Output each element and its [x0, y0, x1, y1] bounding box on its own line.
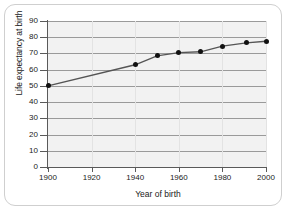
y-tick-mark	[40, 167, 47, 168]
x-tick-mark	[266, 167, 267, 172]
y-tick-mark	[40, 37, 47, 38]
x-tick-label: 1980	[205, 173, 239, 182]
y-tick-mark	[40, 21, 47, 22]
y-tick-label: 10	[14, 146, 38, 155]
y-tick-label: 90	[14, 16, 38, 25]
x-tick-mark	[135, 167, 136, 172]
x-tick-mark	[222, 167, 223, 172]
y-tick-label: 40	[14, 97, 38, 106]
x-axis-title: Year of birth	[45, 189, 271, 199]
y-tick-mark	[40, 151, 47, 152]
life-expectancy-line-chart: Life expectancy at birth 010203040506070…	[0, 0, 288, 212]
y-tick-mark	[40, 135, 47, 136]
y-tick-mark	[40, 70, 47, 71]
x-tick-mark	[92, 167, 93, 172]
y-tick-label: 80	[14, 32, 38, 41]
y-tick-mark	[40, 53, 47, 54]
data-point	[155, 53, 160, 58]
y-tick-label: 0	[14, 162, 38, 171]
x-tick-label: 2000	[249, 173, 283, 182]
series-polyline	[48, 21, 266, 167]
x-tick-label: 1900	[31, 173, 65, 182]
y-tick-label: 70	[14, 48, 38, 57]
x-tick-mark	[179, 167, 180, 172]
x-tick-mark	[48, 167, 49, 172]
y-tick-mark	[40, 102, 47, 103]
data-point	[46, 83, 51, 88]
y-tick-mark	[40, 118, 47, 119]
y-tick-label: 20	[14, 130, 38, 139]
y-tick-label: 50	[14, 81, 38, 90]
x-tick-label: 1920	[75, 173, 109, 182]
x-axis-line	[47, 167, 267, 168]
x-tick-label: 1960	[162, 173, 196, 182]
data-point	[264, 39, 269, 44]
y-tick-label: 30	[14, 113, 38, 122]
y-tick-label: 60	[14, 65, 38, 74]
x-tick-label: 1940	[118, 173, 152, 182]
data-point	[220, 44, 225, 49]
